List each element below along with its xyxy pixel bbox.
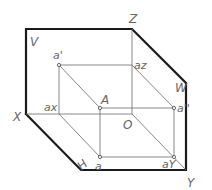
point-a-prime (57, 63, 60, 66)
label-A: A (100, 93, 109, 107)
label-W: W (175, 81, 188, 95)
label-X: X (12, 110, 22, 124)
label-Z: Z (128, 12, 138, 26)
label-O: O (123, 118, 132, 132)
label-az: az (134, 59, 147, 72)
label-a-prime: a' (53, 49, 63, 62)
point-a-double-prime (172, 106, 175, 109)
a-prime-A-line (59, 65, 100, 108)
y-axis-line (132, 114, 186, 170)
ax-a-line (59, 114, 100, 157)
label-ax: ax (44, 101, 58, 114)
label-V: V (30, 35, 39, 49)
projection-diagram: V H W Z X Y O A a' az ax a'' a aY (0, 0, 212, 190)
label-aY: aY (162, 158, 177, 171)
point-a (98, 155, 101, 158)
label-a: a (95, 160, 102, 173)
label-Y: Y (187, 176, 196, 190)
label-a-double-prime: a'' (177, 102, 190, 115)
